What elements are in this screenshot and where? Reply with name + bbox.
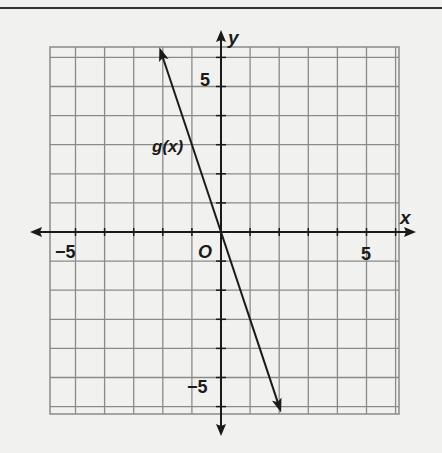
x-axis-label: x [399,207,412,228]
coordinate-plane: y x O −5 5 5 −5 g(x) [0,0,442,453]
x-tick-label-5: 5 [361,244,371,264]
y-axis-label: y [227,27,240,48]
x-tick-label-neg5: −5 [55,242,76,262]
g-of-x-label: g(x) [151,137,184,156]
y-tick-label-neg5: −5 [187,377,208,397]
grid [50,47,399,414]
y-tick-label-5: 5 [200,70,210,90]
grid-border [50,47,399,414]
origin-label: O [198,242,212,262]
